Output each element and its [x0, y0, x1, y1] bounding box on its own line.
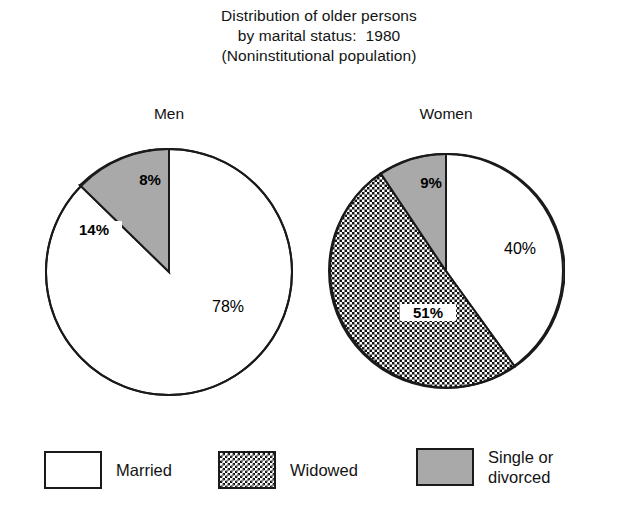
panel-caption-women: Women — [386, 105, 506, 123]
legend-item-widowed: Widowed — [218, 451, 358, 489]
legend-swatch-married-icon — [44, 451, 102, 489]
pie-label-men-single: 8% — [128, 171, 172, 188]
legend-item-married: Married — [44, 451, 172, 489]
pie-label-men-widowed: 14% — [66, 221, 122, 238]
panel-caption-men: Men — [109, 105, 229, 123]
legend-swatch-single-icon — [416, 448, 474, 486]
chart-title: Distribution of older persons by marital… — [0, 6, 638, 66]
legend-swatch-widowed-icon — [218, 451, 276, 489]
pie-label-women-widowed: 51% — [400, 304, 456, 321]
pie-label-men-married: 78% — [200, 298, 256, 316]
legend-label-single: Single or divorced — [488, 447, 553, 487]
title-line-3: (Noninstitutional population) — [0, 46, 638, 66]
chart-figure: Distribution of older persons by marital… — [0, 0, 638, 518]
pie-label-women-married: 40% — [492, 240, 548, 258]
title-line-1: Distribution of older persons — [0, 6, 638, 26]
legend-label-married: Married — [116, 460, 172, 480]
legend-item-single: Single or divorced — [416, 447, 553, 487]
legend-label-widowed: Widowed — [290, 460, 358, 480]
chart-legend: Married Widowed Single or divorced — [0, 443, 638, 505]
title-line-2: by marital status: 1980 — [0, 26, 638, 46]
pie-label-women-single: 9% — [410, 174, 452, 191]
